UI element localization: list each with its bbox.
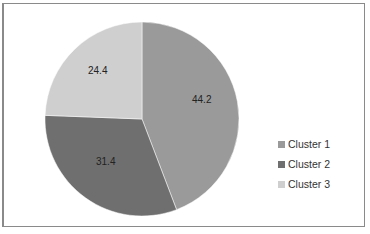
legend-item-cluster-1: Cluster 1 xyxy=(278,134,330,154)
legend-item-cluster-2: Cluster 2 xyxy=(278,154,330,174)
legend-swatch xyxy=(278,161,285,168)
slice-label-cluster-2: 31.4 xyxy=(96,156,115,167)
legend: Cluster 1 Cluster 2 Cluster 3 xyxy=(278,134,330,194)
legend-label: Cluster 1 xyxy=(288,138,330,150)
legend-swatch xyxy=(278,181,285,188)
slice-label-cluster-3: 24.4 xyxy=(88,65,107,76)
pie-chart xyxy=(0,0,370,234)
legend-label: Cluster 2 xyxy=(288,158,330,170)
legend-swatch xyxy=(278,141,285,148)
legend-item-cluster-3: Cluster 3 xyxy=(278,174,330,194)
legend-label: Cluster 3 xyxy=(288,178,330,190)
slice-label-cluster-1: 44.2 xyxy=(192,94,211,105)
